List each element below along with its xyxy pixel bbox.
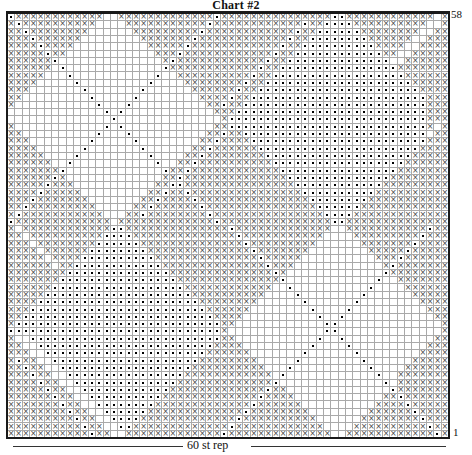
chart-cell: ×	[67, 43, 73, 49]
chart-cell: ×	[155, 204, 161, 210]
chart-cell	[375, 284, 381, 290]
chart-cell: ×	[177, 36, 183, 42]
chart-cell	[368, 138, 374, 144]
chart-cell: ×	[236, 21, 242, 27]
page: Chart #2 ×××××××××××××××××××××××××××××××…	[0, 0, 472, 455]
chart-cell	[170, 372, 176, 378]
chart-cell	[287, 372, 293, 378]
chart-cell: ×	[427, 160, 433, 166]
chart-cell: ×	[45, 277, 51, 283]
chart-cell	[331, 219, 337, 225]
chart-cell: ×	[37, 416, 43, 422]
chart-cell	[59, 299, 65, 305]
chart-cell	[133, 87, 139, 93]
chart-cell	[140, 350, 146, 356]
chart-cell	[45, 138, 51, 144]
chart-cell	[126, 29, 132, 35]
chart-cell: ×	[133, 219, 139, 225]
chart-cell: ×	[214, 153, 220, 159]
chart-cell: ×	[15, 263, 21, 269]
chart-cell: ×	[37, 29, 43, 35]
chart-cell: ×	[258, 72, 264, 78]
chart-cell	[140, 168, 146, 174]
chart-cell	[324, 328, 330, 334]
chart-cell	[118, 248, 124, 254]
chart-cell: ×	[170, 233, 176, 239]
chart-cell	[317, 94, 323, 100]
chart-cell	[118, 65, 124, 71]
chart-cell: ×	[302, 197, 308, 203]
chart-cell: ×	[206, 409, 212, 415]
chart-cell: ×	[398, 211, 404, 217]
chart-cell	[126, 197, 132, 203]
chart-cell	[287, 380, 293, 386]
chart-cell	[287, 299, 293, 305]
chart-cell	[361, 189, 367, 195]
chart-cell	[287, 328, 293, 334]
chart-cell: ×	[442, 380, 448, 386]
chart-cell: ×	[23, 80, 29, 86]
chart-cell: ×	[398, 204, 404, 210]
chart-cell: ×	[206, 182, 212, 188]
chart-cell	[324, 138, 330, 144]
chart-cell: ×	[251, 65, 257, 71]
chart-cell	[162, 372, 168, 378]
chart-cell	[184, 168, 190, 174]
chart-cell	[339, 182, 345, 188]
chart-cell	[162, 292, 168, 298]
chart-cell	[162, 270, 168, 276]
chart-cell	[390, 109, 396, 115]
chart-cell: ×	[8, 51, 14, 57]
chart-cell	[111, 233, 117, 239]
chart-cell	[412, 87, 418, 93]
chart-cell: ×	[405, 277, 411, 283]
chart-cell: ×	[258, 189, 264, 195]
chart-cell	[30, 116, 36, 122]
chart-cell: ×	[361, 241, 367, 247]
chart-cell	[199, 321, 205, 327]
chart-cell	[295, 65, 301, 71]
chart-cell	[148, 87, 154, 93]
chart-cell	[353, 102, 359, 108]
chart-cell	[295, 131, 301, 137]
chart-cell: ×	[162, 29, 168, 35]
chart-cell: ×	[23, 255, 29, 261]
chart-cell: ×	[133, 431, 139, 437]
chart-cell: ×	[221, 43, 227, 49]
chart-cell	[258, 109, 264, 115]
chart-cell	[192, 350, 198, 356]
chart-cell: ×	[442, 168, 448, 174]
chart-cell: ×	[184, 211, 190, 217]
chart-cell: ×	[273, 219, 279, 225]
chart-cell: ×	[15, 350, 21, 356]
chart-cell	[67, 153, 73, 159]
chart-cell: ×	[206, 372, 212, 378]
chart-cell: ×	[405, 182, 411, 188]
chart-cell: ×	[37, 153, 43, 159]
chart-cell	[302, 387, 308, 393]
chart-cell	[339, 328, 345, 334]
chart-cell: ×	[170, 29, 176, 35]
chart-cell: ×	[434, 336, 440, 342]
chart-cell: ×	[52, 204, 58, 210]
chart-cell: ×	[258, 219, 264, 225]
chart-cell: ×	[214, 343, 220, 349]
chart-cell	[111, 336, 117, 342]
chart-cell	[126, 292, 132, 298]
chart-cell: ×	[412, 416, 418, 422]
chart-cell	[309, 168, 315, 174]
chart-cell: ×	[412, 372, 418, 378]
chart-cell	[353, 350, 359, 356]
chart-cell	[96, 58, 102, 64]
chart-cell: ×	[23, 65, 29, 71]
chart-cell: ×	[184, 58, 190, 64]
chart-cell	[390, 328, 396, 334]
chart-cell	[140, 43, 146, 49]
chart-cell	[353, 58, 359, 64]
chart-cell: ×	[23, 168, 29, 174]
chart-cell	[140, 80, 146, 86]
chart-cell	[118, 409, 124, 415]
chart-cell: ×	[398, 248, 404, 254]
chart-cell	[52, 328, 58, 334]
chart-cell: ×	[214, 211, 220, 217]
